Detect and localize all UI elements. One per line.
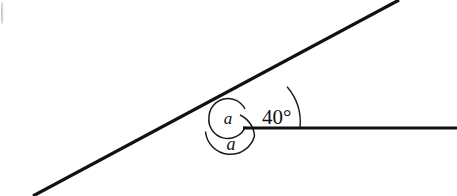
transversal-line xyxy=(33,0,399,196)
angle-a-lower-label: a xyxy=(227,134,236,154)
angle-diagram-figure: a a 40° xyxy=(0,0,457,196)
angle-measure-label: 40° xyxy=(262,105,291,129)
diagram-canvas: a a 40° xyxy=(0,0,457,196)
angle-a-upper-label: a xyxy=(224,109,233,128)
